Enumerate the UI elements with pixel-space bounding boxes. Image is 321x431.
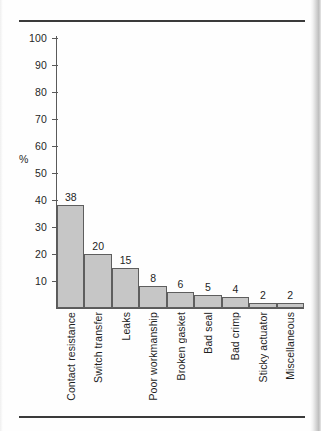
bar[interactable] xyxy=(222,297,249,308)
bar[interactable] xyxy=(167,292,194,308)
category-label: Poor workmanship xyxy=(147,312,159,401)
scan-edge-right xyxy=(310,0,321,431)
y-tick-label: 100 xyxy=(29,33,47,44)
y-tick-label: 40 xyxy=(35,195,47,206)
bar-value-label: 4 xyxy=(222,284,249,295)
chart-page: % 100908070605040302010 Contact resistan… xyxy=(0,0,321,431)
bar[interactable] xyxy=(249,303,276,308)
bar[interactable] xyxy=(84,254,111,308)
scan-edge-left xyxy=(0,0,3,431)
bar[interactable] xyxy=(112,268,139,309)
y-tick-label: 80 xyxy=(35,87,47,98)
bar-series xyxy=(57,0,304,308)
y-tick-label: 30 xyxy=(35,222,47,233)
category-label: Leaks xyxy=(120,312,132,341)
bar-value-label: 20 xyxy=(84,241,111,252)
category-label: Miscellaneous xyxy=(284,312,296,380)
y-tick-label: 50 xyxy=(35,168,47,179)
category-label: Broken gasket xyxy=(175,312,187,380)
category-label: Sticky actuator xyxy=(257,312,269,382)
category-label: Contact resistance xyxy=(65,312,77,401)
bar[interactable] xyxy=(139,286,166,308)
category-label: Bad crimp xyxy=(229,312,241,360)
bar-value-label: 38 xyxy=(57,192,84,203)
bar[interactable] xyxy=(277,303,304,308)
bar[interactable] xyxy=(57,205,84,308)
bottom-rule xyxy=(19,416,305,418)
y-axis-title: % xyxy=(19,153,28,165)
bar-value-label: 2 xyxy=(249,290,276,301)
x-axis-baseline xyxy=(56,308,304,309)
bar-value-label: 5 xyxy=(194,282,221,293)
y-tick-label: 20 xyxy=(35,249,47,260)
y-tick-label: 10 xyxy=(35,276,47,287)
bar-value-label: 6 xyxy=(167,279,194,290)
bar-value-label: 2 xyxy=(277,290,304,301)
category-label: Switch transfer xyxy=(92,312,104,383)
y-tick-label: 60 xyxy=(35,141,47,152)
bar-value-label: 8 xyxy=(139,273,166,284)
bar[interactable] xyxy=(194,295,221,309)
y-tick-label: 90 xyxy=(35,60,47,71)
bar-value-label: 15 xyxy=(112,255,139,266)
y-tick-label: 70 xyxy=(35,114,47,125)
category-label: Bad seal xyxy=(202,312,214,354)
